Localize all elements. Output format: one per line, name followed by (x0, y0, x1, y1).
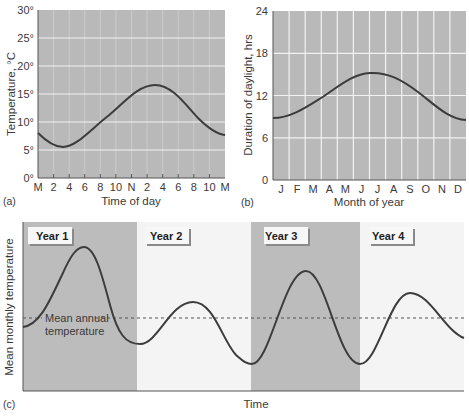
chart-a-xtick-labels: M 2 4 6 8 10 N 2 4 6 8 10 M (33, 181, 229, 193)
chart-b-xlabel: Month of year (334, 196, 404, 208)
chart-a-ytick: 10° (17, 116, 34, 128)
chart-b-xtick: A (390, 183, 398, 195)
year-3-text: Year 3 (265, 230, 297, 242)
chart-b-ytick: 0 (262, 174, 268, 186)
year-3-band (251, 222, 360, 391)
chart-b-xtick: J (359, 183, 365, 195)
chart-a-panel-label: (a) (3, 195, 16, 207)
chart-b-ylabel: Duration of daylight, hrs (242, 34, 254, 156)
chart-b-xtick: S (406, 183, 413, 195)
chart-a-xtick: N (128, 181, 136, 193)
chart-b-ytick: 24 (256, 5, 268, 17)
chart-a-xtick: 8 (97, 181, 103, 193)
chart-a-xtick: 2 (51, 181, 57, 193)
year-4-band (360, 222, 464, 391)
chart-a-xtick: 4 (66, 181, 72, 193)
chart-a-xtick: 10 (110, 181, 122, 193)
chart-a-xtick: 6 (82, 181, 88, 193)
year-2-text: Year 2 (150, 230, 182, 242)
chart-a-xtick: M (33, 181, 42, 193)
chart-a-ytick: 20° (17, 60, 34, 72)
chart-b-xtick: J (375, 183, 381, 195)
year-2-label: Year 2 (145, 227, 191, 246)
chart-b-xtick: M (341, 183, 350, 195)
chart-a-xtick: 4 (160, 181, 166, 193)
chart-a-xtick: 2 (144, 181, 150, 193)
mean-annual-label-line2: temperature (45, 325, 104, 337)
chart-c: Mean annual temperature Year 1 Year 2 Ye… (3, 222, 464, 410)
chart-a-ytick: 30° (17, 4, 34, 16)
chart-b-xtick: M (309, 183, 318, 195)
chart-c-xlabel: Time (243, 398, 268, 410)
year-4-label: Year 4 (369, 227, 415, 246)
chart-a-ytick: 25° (17, 32, 34, 44)
chart-b-xtick: D (454, 183, 462, 195)
chart-b-ytick: 18 (256, 47, 268, 59)
year-1-text: Year 1 (36, 230, 68, 242)
chart-b-xtick-labels: J F M A M J J A S O N D (278, 183, 462, 195)
chart-b: 0 6 12 18 24 J F M A M J J A S O N D Dur… (241, 5, 466, 208)
chart-a-ytick: 15° (17, 88, 34, 100)
chart-c-ylabel: Mean monthly temperature (3, 238, 15, 375)
chart-a-xlabel: Time of day (101, 195, 161, 207)
chart-c-panel-label: (c) (3, 398, 15, 410)
chart-a-xtick: 10 (203, 181, 215, 193)
chart-a: 0° 5° 10° 15° 20° 25° 30° M 2 4 6 8 10 N… (3, 4, 230, 207)
figure: 0° 5° 10° 15° 20° 25° 30° M 2 4 6 8 10 N… (0, 0, 469, 418)
chart-b-ytick: 12 (256, 90, 268, 102)
chart-b-ytick: 6 (262, 132, 268, 144)
chart-a-ytick: 0° (23, 172, 34, 184)
year-4-text: Year 4 (372, 230, 405, 242)
chart-b-xtick: J (278, 183, 284, 195)
chart-a-ytick: 5° (23, 144, 34, 156)
chart-b-xtick: F (294, 183, 301, 195)
year-1-label: Year 1 (28, 227, 74, 246)
chart-a-xtick: 8 (191, 181, 197, 193)
chart-a-xtick: 6 (175, 181, 181, 193)
mean-annual-label-line1: Mean annual (45, 312, 109, 324)
chart-b-xtick: O (422, 183, 431, 195)
year-2-band (137, 222, 251, 391)
chart-b-xtick: N (438, 183, 446, 195)
chart-a-xtick: M (220, 181, 229, 193)
year-3-label: Year 3 (264, 227, 310, 246)
chart-b-xtick: A (326, 183, 334, 195)
chart-a-ylabel: Temperature, °C (5, 52, 17, 136)
chart-b-panel-label: (b) (241, 196, 254, 208)
